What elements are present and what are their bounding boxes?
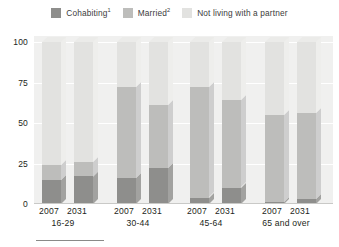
y-tick-label: 50 — [18, 118, 28, 128]
bar-65-and-over-2031[interactable] — [297, 42, 316, 204]
bar-segment-cohabiting — [74, 176, 93, 204]
x-range-label: 30-44 — [103, 218, 173, 228]
y-axis: 0255075100 — [0, 36, 32, 204]
x-year-labels: 20072031 — [103, 206, 173, 216]
legend-swatch-married — [123, 8, 133, 18]
bar-segment-side — [61, 37, 66, 165]
bar-segment-not_partner — [74, 42, 93, 162]
bar-segment-not_partner — [297, 42, 316, 113]
legend-swatch-cohabiting — [51, 8, 61, 18]
chart-legend: Cohabiting1Married2Not living with a par… — [0, 0, 339, 26]
bar-segment-side — [136, 37, 141, 87]
x-range-label: 45-64 — [176, 218, 246, 228]
bar-segment-side — [241, 37, 246, 100]
legend-item-not-living-with-a-partner[interactable]: Not living with a partner — [182, 8, 287, 18]
footnote-rule — [36, 240, 104, 241]
bar-segment-side — [316, 37, 321, 113]
y-tick-label: 25 — [18, 159, 28, 169]
x-range-label: 16-29 — [28, 218, 98, 228]
bar-16-29-2007[interactable] — [42, 42, 61, 204]
bar-segment-side — [209, 37, 214, 87]
bar-segment-not_partner — [190, 42, 209, 87]
x-year-labels: 20072031 — [176, 206, 246, 216]
legend-item-married[interactable]: Married2 — [123, 8, 170, 18]
bar-segment-married — [42, 165, 61, 180]
legend-footnote-marker: 2 — [167, 7, 170, 13]
bar-segment-side — [93, 171, 98, 204]
bar-segment-side — [284, 110, 289, 202]
bar-45-64-2031[interactable] — [222, 42, 241, 204]
bar-segment-side — [316, 108, 321, 199]
bar-segment-married — [222, 100, 241, 187]
x-year-label: 2031 — [142, 206, 162, 216]
bar-segment-not_partner — [265, 42, 284, 115]
x-group-30-44: 2007203130-44 — [103, 206, 173, 228]
bar-segment-side — [209, 82, 214, 197]
legend-footnote-marker: 1 — [108, 7, 111, 13]
bar-segment-side — [241, 95, 246, 187]
x-year-label: 2007 — [39, 206, 59, 216]
legend-swatch-not-living-with-a-partner — [182, 8, 192, 18]
bar-segment-side — [136, 82, 141, 178]
bar-segment-side — [168, 163, 173, 204]
bar-segment-not_partner — [222, 42, 241, 100]
x-axis-labels: 2007203116-292007203130-442007203145-642… — [34, 206, 333, 240]
bar-segment-side — [93, 37, 98, 162]
x-year-label: 2007 — [187, 206, 207, 216]
bar-segment-married — [297, 113, 316, 199]
bar-segment-married — [190, 87, 209, 197]
bar-30-44-2007[interactable] — [117, 42, 136, 204]
legend-label-cohabiting: Cohabiting1 — [66, 8, 110, 18]
bar-segment-cohabiting — [117, 178, 136, 204]
bar-30-44-2031[interactable] — [149, 42, 168, 204]
bar-segment-side — [284, 37, 289, 115]
x-group-16-29: 2007203116-29 — [28, 206, 98, 228]
axis-baseline — [34, 203, 333, 204]
x-year-labels: 20072031 — [28, 206, 98, 216]
x-year-labels: 20072031 — [251, 206, 321, 216]
bar-segment-not_partner — [117, 42, 136, 87]
stacked-bar-chart: Cohabiting1Married2Not living with a par… — [0, 0, 339, 247]
bar-45-64-2007[interactable] — [190, 42, 209, 204]
x-year-label: 2007 — [262, 206, 282, 216]
bar-segment-side — [136, 173, 141, 204]
bar-segment-side — [168, 37, 173, 105]
bar-segment-married — [265, 115, 284, 202]
bar-segment-not_partner — [42, 42, 61, 165]
bar-16-29-2031[interactable] — [74, 42, 93, 204]
bar-segment-side — [61, 175, 66, 204]
legend-item-cohabiting[interactable]: Cohabiting1 — [51, 8, 110, 18]
x-group-45-64: 2007203145-64 — [176, 206, 246, 228]
x-year-label: 2031 — [67, 206, 87, 216]
bar-segment-not_partner — [149, 42, 168, 105]
x-year-label: 2007 — [114, 206, 134, 216]
x-range-label: 65 and over — [251, 218, 321, 228]
bar-segment-cohabiting — [149, 168, 168, 204]
x-year-label: 2031 — [215, 206, 235, 216]
y-tick-label: 75 — [18, 78, 28, 88]
x-group-65-and-over: 2007203165 and over — [251, 206, 321, 228]
bar-segment-married — [149, 105, 168, 168]
x-year-label: 2031 — [290, 206, 310, 216]
bar-segment-side — [168, 100, 173, 168]
bar-segment-cohabiting — [42, 180, 61, 204]
y-tick-label: 100 — [13, 37, 28, 47]
legend-label-married: Married2 — [138, 8, 170, 18]
plot-area — [34, 36, 333, 204]
legend-label-not-living-with-a-partner: Not living with a partner — [197, 8, 287, 18]
bar-segment-married — [74, 162, 93, 177]
bar-segment-married — [117, 87, 136, 178]
bar-65-and-over-2007[interactable] — [265, 42, 284, 204]
bar-groups — [34, 36, 333, 204]
bar-segment-cohabiting — [222, 188, 241, 204]
